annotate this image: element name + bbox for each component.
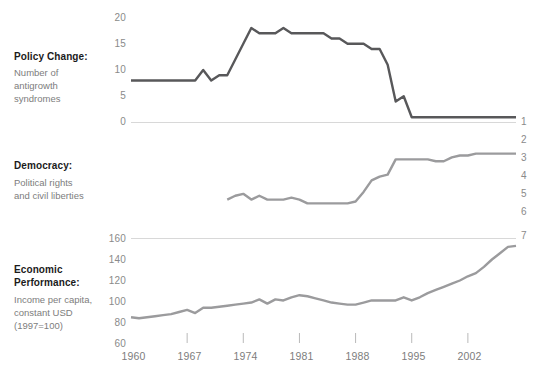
xtick-label-1974: 1974 [223,350,268,362]
x-axis-tickmarks [187,333,468,343]
chart-figure: Policy Change: Number of antigrowth synd… [0,0,535,382]
economic-performance-plot [0,0,535,382]
xtick-label-1988: 1988 [335,350,380,362]
xtick-label-2002: 2002 [447,350,492,362]
xtick-label-1981: 1981 [279,350,324,362]
xtick-label-1967: 1967 [167,350,212,362]
xtick-label-1960: 1960 [111,350,156,362]
xtick-label-1995: 1995 [391,350,436,362]
economic-series-line [131,246,516,318]
